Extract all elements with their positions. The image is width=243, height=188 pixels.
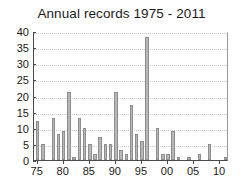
x-axis-tick-label: 10 <box>213 166 225 177</box>
bar <box>119 150 123 160</box>
x-axis-tick-label: 85 <box>83 166 95 177</box>
bar <box>166 154 170 160</box>
bar <box>130 105 134 160</box>
y-axis-tick-label: 10 <box>3 123 29 134</box>
bar <box>208 144 212 160</box>
y-axis-tick-mark <box>33 113 36 114</box>
bar <box>171 131 175 160</box>
x-axis-tick-mark <box>115 161 116 164</box>
bar <box>88 144 92 160</box>
y-axis-tick-label: 5 <box>3 139 29 150</box>
bar <box>36 121 40 160</box>
y-axis-tick-label: 25 <box>3 75 29 86</box>
y-axis-tick-mark <box>33 161 36 162</box>
bar <box>140 141 144 160</box>
chart-figure: Annual records 1975 - 2011 0510152025303… <box>0 0 243 188</box>
x-axis-tick-mark <box>63 161 64 164</box>
y-axis-tick-mark <box>33 129 36 130</box>
x-axis-tick-mark <box>193 161 194 164</box>
bar <box>52 118 56 160</box>
bar <box>187 157 191 160</box>
y-axis-tick-label: 40 <box>3 27 29 38</box>
bar <box>177 157 181 160</box>
y-axis-tick-mark <box>33 48 36 49</box>
bar <box>104 144 108 160</box>
x-axis-tick-mark <box>141 161 142 164</box>
y-axis-tick-mark <box>33 145 36 146</box>
y-axis-tick-mark <box>33 32 36 33</box>
plot-area <box>33 32 228 161</box>
bar <box>57 134 61 160</box>
y-axis-tick-labels: 0510152025303540 <box>0 0 29 188</box>
bar <box>41 144 45 160</box>
bar <box>67 92 71 160</box>
bar <box>78 118 82 160</box>
bar <box>114 92 118 160</box>
x-axis-tick-label: 05 <box>187 166 199 177</box>
y-axis-tick-label: 35 <box>3 43 29 54</box>
x-axis-tick-mark <box>89 161 90 164</box>
y-axis-tick-mark <box>33 97 36 98</box>
x-axis-tick-label: 75 <box>31 166 43 177</box>
bar <box>93 154 97 160</box>
y-axis-tick-label: 30 <box>3 59 29 70</box>
x-axis-tick-mark <box>167 161 168 164</box>
bar <box>72 157 76 160</box>
x-axis-tick-mark <box>219 161 220 164</box>
bar <box>135 134 139 160</box>
bar <box>62 131 66 160</box>
bars-layer <box>34 33 227 160</box>
x-axis-tick-label: 90 <box>109 166 121 177</box>
y-axis-tick-label: 20 <box>3 91 29 102</box>
bar <box>83 128 87 160</box>
bar <box>224 157 228 160</box>
x-axis-tick-label: 00 <box>161 166 173 177</box>
y-axis-tick-label: 0 <box>3 156 29 167</box>
bar <box>198 154 202 160</box>
chart-title: Annual records 1975 - 2011 <box>0 6 243 21</box>
x-axis-tick-label: 95 <box>135 166 147 177</box>
bar <box>109 144 113 160</box>
x-axis-tick-label: 80 <box>57 166 69 177</box>
bar <box>125 154 129 160</box>
bar <box>145 37 149 160</box>
y-axis-tick-mark <box>33 80 36 81</box>
x-axis-tick-mark <box>37 161 38 164</box>
y-axis-tick-label: 15 <box>3 107 29 118</box>
bar <box>161 154 165 160</box>
bar <box>156 128 160 160</box>
bar <box>98 137 102 160</box>
y-axis-tick-mark <box>33 64 36 65</box>
